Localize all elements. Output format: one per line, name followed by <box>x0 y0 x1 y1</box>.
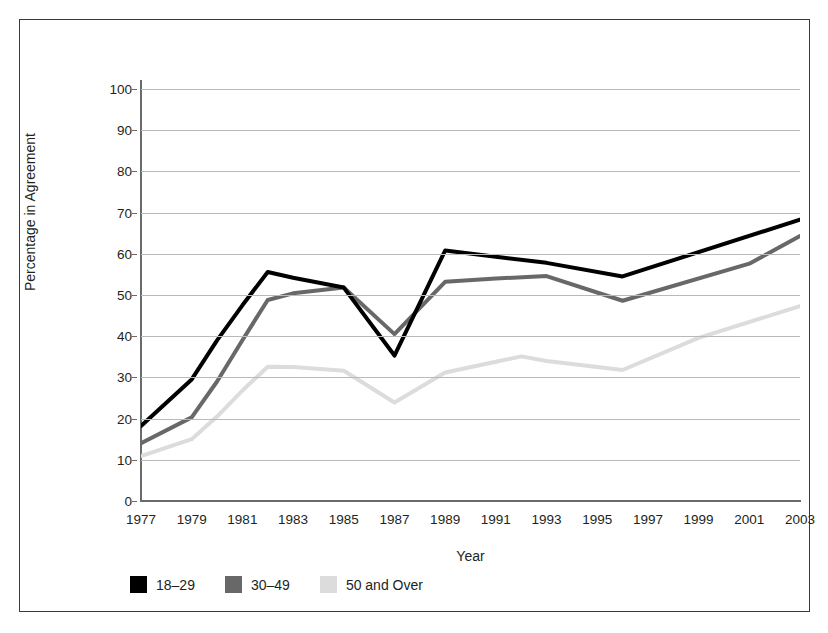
y-tick-mark <box>132 171 137 172</box>
data-line-50-and-over <box>141 306 800 456</box>
x-tick-label: 1999 <box>684 512 714 527</box>
legend-entry: 50 and Over <box>320 576 423 593</box>
legend-label: 30–49 <box>251 577 290 593</box>
y-tick-mark <box>132 336 137 337</box>
x-tick-label: 1993 <box>532 512 562 527</box>
chart-figure-frame: 0102030405060708090100 Percentage in Agr… <box>19 19 810 612</box>
chart-legend: 18–2930–4950 and Over <box>130 576 423 593</box>
gridline <box>141 171 800 172</box>
y-tick-mark <box>132 419 137 420</box>
y-tick-mark <box>132 460 137 461</box>
x-axis-tick-labels: 1977197919811983198519871989199119931995… <box>141 512 800 536</box>
y-tick-label: 60 <box>86 246 132 261</box>
y-axis-tick-labels: 0102030405060708090100 <box>74 89 132 501</box>
y-tick-label: 100 <box>86 82 132 97</box>
x-tick-label: 1981 <box>227 512 257 527</box>
gridline <box>141 213 800 214</box>
legend-entry: 30–49 <box>225 576 290 593</box>
x-tick-label: 2003 <box>785 512 815 527</box>
x-tick-label: 1991 <box>481 512 511 527</box>
legend-swatch-icon <box>130 576 147 593</box>
y-tick-label: 40 <box>86 329 132 344</box>
y-axis-title: Percentage in Agreement <box>22 2 38 422</box>
gridline <box>141 336 800 337</box>
y-tick-label: 70 <box>86 205 132 220</box>
x-tick-label: 1989 <box>430 512 460 527</box>
y-tick-mark <box>132 130 137 131</box>
legend-entry: 18–29 <box>130 576 195 593</box>
legend-swatch-icon <box>225 576 242 593</box>
gridline <box>141 377 800 378</box>
gridline <box>141 254 800 255</box>
x-tick-label: 2001 <box>734 512 764 527</box>
y-tick-mark <box>132 213 137 214</box>
y-tick-mark <box>132 501 137 502</box>
gridline <box>141 130 800 131</box>
x-tick-label: 1983 <box>278 512 308 527</box>
x-axis-title: Year <box>141 548 800 564</box>
y-tick-label: 10 <box>86 452 132 467</box>
y-tick-label: 50 <box>86 288 132 303</box>
x-tick-label: 1977 <box>126 512 156 527</box>
legend-swatch-icon <box>320 576 337 593</box>
y-tick-mark <box>132 377 137 378</box>
legend-label: 50 and Over <box>346 577 423 593</box>
legend-label: 18–29 <box>156 577 195 593</box>
gridline <box>141 89 800 90</box>
x-tick-label: 1985 <box>329 512 359 527</box>
y-tick-mark <box>132 89 137 90</box>
x-tick-label: 1997 <box>633 512 663 527</box>
y-tick-label: 30 <box>86 370 132 385</box>
plot-area <box>141 89 800 501</box>
gridline <box>141 295 800 296</box>
y-tick-label: 20 <box>86 411 132 426</box>
y-tick-label: 0 <box>86 494 132 509</box>
gridline <box>141 419 800 420</box>
x-tick-label: 1987 <box>379 512 409 527</box>
y-tick-label: 90 <box>86 123 132 138</box>
x-tick-label: 1995 <box>582 512 612 527</box>
y-tick-mark <box>132 295 137 296</box>
data-line-30-49 <box>141 236 800 443</box>
gridline <box>141 460 800 461</box>
y-tick-label: 80 <box>86 164 132 179</box>
x-tick-label: 1979 <box>177 512 207 527</box>
y-tick-mark <box>132 254 137 255</box>
